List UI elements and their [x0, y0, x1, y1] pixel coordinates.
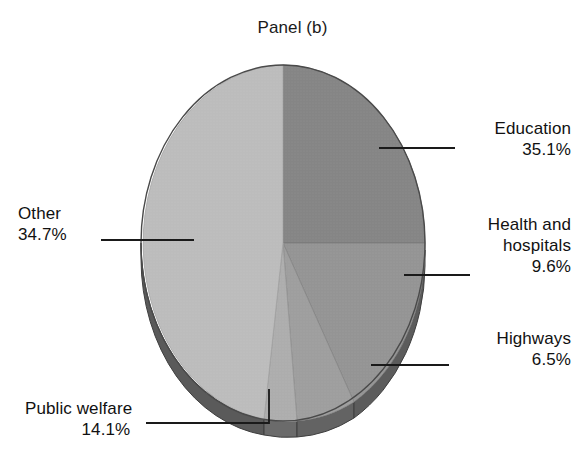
slice-value-public-welfare: 14.1% — [25, 419, 132, 440]
slice-label-highways-name: Highways — [497, 329, 572, 348]
slice-label-public-welfare: Public welfare 14.1% — [25, 398, 132, 440]
slice-label-other-name: Other — [18, 204, 61, 223]
pie-chart-figure: Panel (b) — [0, 0, 585, 472]
slice-value-education: 35.1% — [494, 139, 571, 160]
slice-value-highways: 6.5% — [497, 349, 572, 370]
slice-label-health-and-hospitals: Health and hospitals 9.6% — [488, 214, 571, 277]
slice-label-education-name: Education — [494, 119, 571, 138]
pie-slices — [141, 65, 425, 421]
slice-label-health-line2: hospitals — [488, 235, 571, 256]
slice-value-health-and-hospitals: 9.6% — [488, 256, 571, 277]
slice-label-highways: Highways 6.5% — [497, 328, 572, 370]
slice-label-health-line1: Health and — [488, 215, 571, 234]
slice-value-other: 34.7% — [18, 224, 67, 245]
slice-label-education: Education 35.1% — [494, 118, 571, 160]
slice-label-other: Other 34.7% — [18, 203, 67, 245]
slice-label-public-welfare-name: Public welfare — [25, 399, 132, 418]
